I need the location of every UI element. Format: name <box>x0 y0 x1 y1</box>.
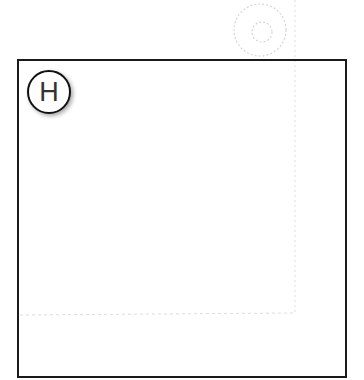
h-badge[interactable]: H <box>27 70 71 114</box>
ghost-outer-circle <box>234 4 286 56</box>
badge-label: H <box>39 79 59 106</box>
content-frame <box>17 59 347 378</box>
ghost-inner-circle <box>252 22 272 42</box>
